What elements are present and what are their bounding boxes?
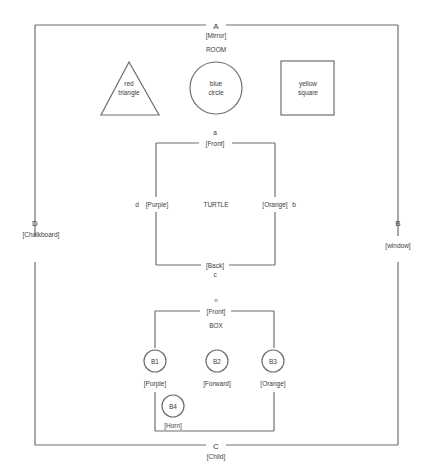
- square-label-line1: yellow: [299, 80, 317, 88]
- triangle-label-line2: triangle: [118, 89, 140, 97]
- circle-shape: [190, 62, 242, 114]
- turtle-top-label: [Front]: [206, 140, 225, 148]
- room-diagram: A [Mirror] ROOM B [window] C [Child] D […: [0, 0, 425, 476]
- box-button-b1: B1 [Purple]: [144, 350, 167, 388]
- box-title: BOX: [209, 322, 223, 329]
- button-b4-id: B4: [169, 403, 177, 410]
- red-triangle-object: red triangle: [101, 62, 159, 115]
- turtle-right-letter: b: [292, 201, 296, 208]
- turtle-right-label: [Orange]: [262, 201, 287, 209]
- wall-bottom-letter: C: [213, 442, 219, 451]
- room-title: ROOM: [206, 46, 226, 53]
- box-button-b2: B2 [Forward]: [203, 350, 231, 388]
- button-b2-id: B2: [213, 358, 221, 365]
- box-top-letter: n: [214, 297, 217, 303]
- turtle-left-letter: d: [135, 201, 139, 208]
- wall-right-letter: B: [395, 219, 400, 228]
- circle-label-line2: circle: [208, 89, 224, 96]
- circle-label-line1: blue: [210, 80, 223, 87]
- turtle-top-letter: a: [213, 129, 217, 136]
- box-outline: [155, 311, 274, 431]
- yellow-square-object: yellow square: [281, 61, 334, 115]
- wall-left-label: [Chalkboard]: [23, 231, 60, 239]
- button-b3-id: B3: [269, 358, 277, 365]
- square-shape: [281, 61, 334, 115]
- turtle-bottom-label: [Back]: [206, 262, 224, 270]
- wall-left-letter: D: [32, 219, 38, 228]
- wall-top-letter: A: [213, 22, 219, 31]
- triangle-label-line1: red: [124, 80, 134, 87]
- box-top-label: [Front]: [207, 308, 226, 316]
- button-b2-label: [Forward]: [203, 380, 231, 388]
- button-b3-label: [Orange]: [260, 380, 285, 388]
- turtle-left-label: [Purple]: [146, 201, 169, 209]
- wall-bottom-label: [Child]: [207, 453, 226, 461]
- button-b1-label: [Purple]: [144, 380, 167, 388]
- wall-right-label: [window]: [385, 242, 410, 250]
- turtle-title: TURTLE: [203, 201, 229, 208]
- turtle-bottom-letter: c: [213, 271, 217, 278]
- button-b1-id: B1: [151, 358, 159, 365]
- wall-top-label: [Mirror]: [206, 32, 227, 40]
- box-button-b4: B4 [Horn]: [162, 395, 184, 430]
- button-b4-label: [Horn]: [164, 422, 182, 430]
- box-button-b3: B3 [Orange]: [260, 350, 285, 388]
- blue-circle-object: blue circle: [190, 62, 242, 114]
- square-label-line2: square: [298, 89, 318, 97]
